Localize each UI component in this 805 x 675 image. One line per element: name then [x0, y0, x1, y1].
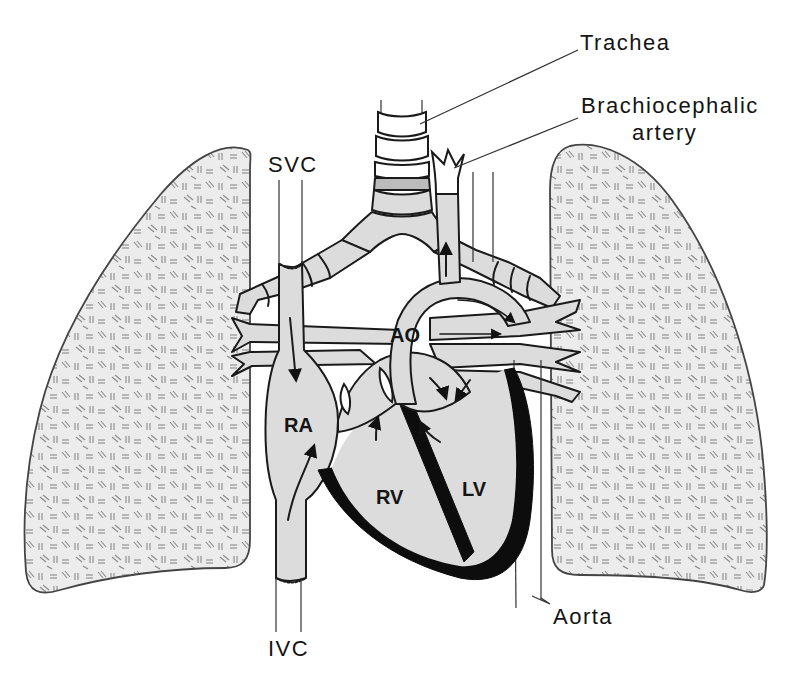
label-ra: RA — [284, 414, 313, 436]
label-rv: RV — [376, 486, 404, 508]
label-brachiocephalic: Brachiocephalic — [581, 93, 759, 118]
label-brachiocephalic-artery: artery — [632, 120, 697, 145]
heart — [318, 353, 533, 580]
label-aorta: Aorta — [553, 604, 613, 629]
label-lv: LV — [462, 478, 487, 500]
heart-lung-diagram: Trachea Brachiocephalic artery SVC IVC A… — [0, 0, 805, 675]
brachiocephalic-artery — [432, 150, 464, 284]
label-svc: SVC — [268, 152, 318, 177]
label-ao: AO — [390, 324, 420, 346]
left-lung — [550, 145, 767, 592]
right-lung — [25, 147, 251, 592]
label-ivc: IVC — [268, 636, 309, 661]
label-trachea: Trachea — [580, 30, 670, 55]
